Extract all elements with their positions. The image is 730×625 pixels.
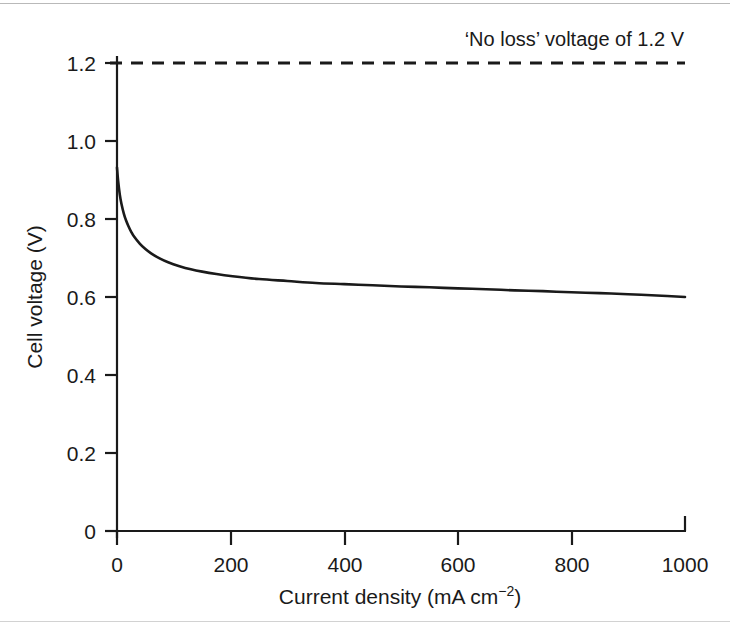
polarization-curve-chart: 0 0.2 0.4 0.6 0.8 1.0 1.2 0 200 400 600 … bbox=[0, 0, 730, 625]
x-tick-label-400: 400 bbox=[327, 553, 362, 576]
x-axis-title-main: Current density (mA cm bbox=[279, 585, 498, 608]
y-tick-label-0.8: 0.8 bbox=[67, 208, 96, 231]
x-axis-title-suffix: ) bbox=[514, 585, 521, 608]
x-tick-label-200: 200 bbox=[213, 553, 248, 576]
x-tick-label-1000: 1000 bbox=[662, 553, 709, 576]
x-axis-title: Current density (mA cm−2) bbox=[279, 583, 521, 608]
y-tick-label-0.6: 0.6 bbox=[67, 286, 96, 309]
y-tick-label-0: 0 bbox=[84, 520, 96, 543]
x-tick-label-800: 800 bbox=[554, 553, 589, 576]
y-tick-label-0.4: 0.4 bbox=[67, 364, 97, 387]
x-tick-label-600: 600 bbox=[440, 553, 475, 576]
x-axis-title-superscript: −2 bbox=[498, 583, 514, 599]
y-axis-ticks bbox=[105, 63, 117, 531]
figure-canvas: 0 0.2 0.4 0.6 0.8 1.0 1.2 0 200 400 600 … bbox=[0, 0, 730, 625]
no-loss-annotation-label: ‘No loss’ voltage of 1.2 V bbox=[465, 28, 685, 50]
y-tick-label-1.2: 1.2 bbox=[67, 52, 96, 75]
y-axis-title: Cell voltage (V) bbox=[23, 225, 46, 369]
cell-voltage-curve bbox=[117, 168, 685, 297]
x-axis-ticks bbox=[117, 531, 572, 545]
x-axis-tick-labels: 0 200 400 600 800 1000 bbox=[111, 553, 708, 576]
y-tick-label-1.0: 1.0 bbox=[67, 130, 96, 153]
x-tick-label-0: 0 bbox=[111, 553, 123, 576]
axes-group bbox=[110, 56, 686, 538]
y-tick-label-0.2: 0.2 bbox=[67, 442, 96, 465]
y-axis-tick-labels: 0 0.2 0.4 0.6 0.8 1.0 1.2 bbox=[67, 52, 97, 543]
